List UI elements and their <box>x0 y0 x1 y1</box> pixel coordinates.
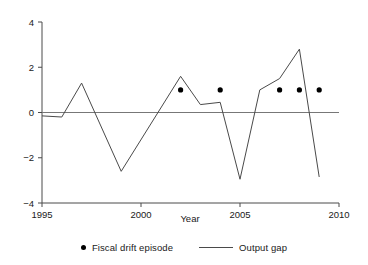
chart-legend: Fiscal drift episode Output gap <box>0 236 368 258</box>
output-gap-line <box>42 49 319 179</box>
x-axis-title: Year <box>180 213 199 224</box>
x-tick-label: 2005 <box>229 209 250 220</box>
fiscal-drift-dot <box>277 87 282 92</box>
legend-item-fiscal-drift-episode: Fiscal drift episode <box>81 242 173 253</box>
y-tick-label: −2 <box>23 152 34 163</box>
plot-area: 420−2−4 1995200020052010 Year <box>0 0 368 225</box>
fiscal-drift-markers <box>178 87 322 92</box>
fiscal-drift-dot <box>317 87 322 92</box>
y-tick-label: −4 <box>23 198 34 209</box>
chart-figure: 420−2−4 1995200020052010 Year Fiscal dri… <box>0 0 368 265</box>
fiscal-drift-dot <box>297 87 302 92</box>
x-tick-label: 1995 <box>31 209 52 220</box>
fiscal-drift-dot <box>178 87 183 92</box>
x-tick-label: 2010 <box>328 209 349 220</box>
legend-line-icon <box>199 247 233 248</box>
fiscal-drift-dot <box>218 87 223 92</box>
legend-label-output-gap: Output gap <box>239 242 287 253</box>
y-axis-ticks: 420−2−4 <box>23 17 42 209</box>
y-tick-label: 0 <box>29 107 34 118</box>
legend-dot-icon <box>81 245 86 250</box>
legend-label-fiscal-drift-episode: Fiscal drift episode <box>92 242 173 253</box>
legend-item-output-gap: Output gap <box>199 242 287 253</box>
x-tick-label: 2000 <box>130 209 151 220</box>
chart-svg: 420−2−4 1995200020052010 Year <box>0 0 368 225</box>
y-tick-label: 2 <box>29 62 34 73</box>
y-tick-label: 4 <box>29 17 34 28</box>
